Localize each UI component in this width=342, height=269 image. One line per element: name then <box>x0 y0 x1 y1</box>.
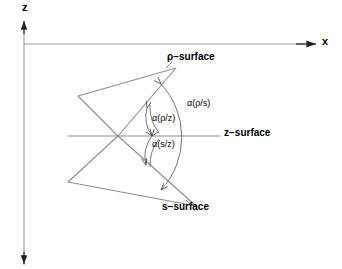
z-surface-label: z−surface <box>224 128 270 138</box>
z-axis-label: z <box>22 2 28 13</box>
rho-surface-label: ρ−surface <box>167 52 215 62</box>
x-axis-label: x <box>322 36 328 47</box>
angle-arc-alpha-rho-s <box>161 84 182 190</box>
s-surface-line-left <box>68 136 118 182</box>
rho-surface-line <box>78 68 176 96</box>
diagram-canvas: z x ρ−surface z−surface s−surface α(ρ/s)… <box>0 0 342 269</box>
diagram-vector-layer <box>0 0 342 269</box>
angle-label-alpha-s-z: α(s/z) <box>152 140 175 149</box>
rho-surface-label-leader <box>166 62 172 68</box>
s-surface-label: s−surface <box>162 202 209 212</box>
angle-label-alpha-rho-s: α(ρ/s) <box>187 99 210 108</box>
angle-label-alpha-rho-z: α(ρ/z) <box>152 114 175 123</box>
rho-surface-line-lower <box>78 96 118 136</box>
